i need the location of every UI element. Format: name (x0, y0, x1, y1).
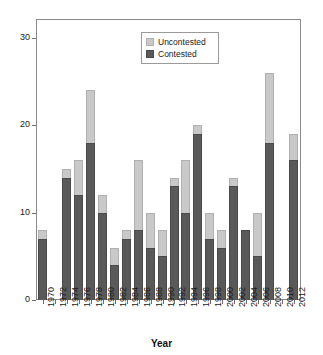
stacked-bar (289, 134, 298, 300)
bar-group (288, 20, 300, 300)
bar-segment-uncontested (253, 213, 262, 257)
legend-label-contested: Contested (158, 50, 197, 59)
x-axis-tick-mark (127, 300, 128, 304)
bar-segment-uncontested (289, 134, 298, 160)
x-axis-title: Year (0, 338, 323, 349)
y-axis-tick-label: 20 (0, 120, 30, 129)
bar-group (264, 20, 276, 300)
stacked-bar (265, 73, 274, 301)
x-axis-tick-mark (91, 300, 92, 304)
x-axis-tick-label: 2012 (298, 287, 307, 307)
stacked-bar (170, 178, 179, 301)
x-axis-tick-mark (163, 300, 164, 304)
stacked-bar (229, 178, 238, 301)
x-axis-tick-mark (198, 300, 199, 304)
stacked-bar (134, 160, 143, 300)
stacked-bar (181, 160, 190, 300)
bar-group (121, 20, 133, 300)
y-axis-tick-mark (32, 38, 36, 39)
bar-segment-contested (265, 143, 274, 301)
x-axis-tick-mark (234, 300, 235, 304)
bar-group (240, 20, 252, 300)
bar-segment-contested (62, 178, 71, 301)
chart-legend: Uncontested Contested (141, 32, 219, 64)
bar-segment-contested (170, 186, 179, 300)
stacked-bar (193, 125, 202, 300)
stacked-bar (62, 169, 71, 300)
x-axis-tick-mark (186, 300, 187, 304)
x-axis-tick-mark (282, 300, 283, 304)
x-axis-tick-mark (79, 300, 80, 304)
x-axis-tick-mark (246, 300, 247, 304)
bar-segment-contested (193, 134, 202, 300)
bar-segment-uncontested (122, 230, 131, 239)
x-axis-tick-mark (103, 300, 104, 304)
y-axis-tick-mark (32, 125, 36, 126)
bar-group (85, 20, 97, 300)
y-axis-tick-label: 30 (0, 33, 30, 42)
x-axis-tick-mark (258, 300, 259, 304)
y-axis-tick-mark (32, 213, 36, 214)
legend-item-contested: Contested (146, 48, 214, 60)
bar-segment-uncontested (74, 160, 83, 195)
bar-group (49, 20, 61, 300)
bar-group (37, 20, 49, 300)
bar-segment-uncontested (110, 248, 119, 266)
bar-segment-contested (289, 160, 298, 300)
bar-group (109, 20, 121, 300)
bar-segment-uncontested (181, 160, 190, 213)
x-axis-tick-mark (67, 300, 68, 304)
bar-segment-uncontested (38, 230, 47, 239)
y-axis-tick-mark (32, 300, 36, 301)
bar-segment-uncontested (265, 73, 274, 143)
x-axis-tick-mark (151, 300, 152, 304)
bar-segment-uncontested (229, 178, 238, 187)
legend-swatch-uncontested-icon (146, 38, 154, 46)
bar-segment-uncontested (98, 195, 107, 213)
x-axis-tick-mark (139, 300, 140, 304)
legend-item-uncontested: Uncontested (146, 36, 214, 48)
bar-segment-contested (74, 195, 83, 300)
x-axis-tick-mark (210, 300, 211, 304)
x-axis-tick-mark (43, 300, 44, 304)
bar-group (276, 20, 288, 300)
bar-group (228, 20, 240, 300)
x-axis-tick-mark (115, 300, 116, 304)
y-axis-tick-label: 0 (0, 295, 30, 304)
stacked-bar (98, 195, 107, 300)
bar-segment-uncontested (86, 90, 95, 143)
bar-segment-uncontested (205, 213, 214, 239)
bar-group (61, 20, 73, 300)
bar-segment-uncontested (146, 213, 155, 248)
bar-group (97, 20, 109, 300)
bar-group (73, 20, 85, 300)
bar-segment-uncontested (158, 230, 167, 256)
x-axis-tick-mark (222, 300, 223, 304)
x-axis-tick-mark (294, 300, 295, 304)
bar-segment-uncontested (134, 160, 143, 230)
stacked-bar-chart: 0102030 19701972197419761978198019821984… (0, 0, 323, 355)
stacked-bar (86, 90, 95, 300)
bar-segment-uncontested (170, 178, 179, 187)
bar-segment-uncontested (62, 169, 71, 178)
legend-label-uncontested: Uncontested (158, 38, 206, 47)
stacked-bar (74, 160, 83, 300)
bar-group (252, 20, 264, 300)
x-axis-tick-mark (270, 300, 271, 304)
legend-swatch-contested-icon (146, 50, 154, 58)
bar-segment-uncontested (193, 125, 202, 134)
bar-segment-uncontested (217, 230, 226, 248)
x-axis-tick-mark (55, 300, 56, 304)
bar-segment-contested (86, 143, 95, 301)
x-axis-tick-mark (174, 300, 175, 304)
y-axis-tick-label: 10 (0, 208, 30, 217)
bar-segment-contested (229, 186, 238, 300)
